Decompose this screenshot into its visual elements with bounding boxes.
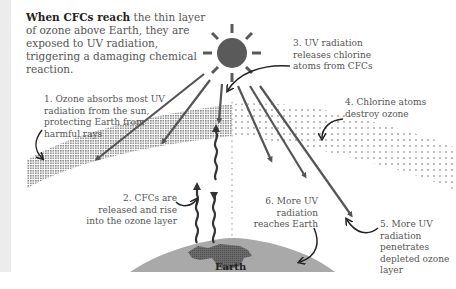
step-6-label: 6. More UV radiation reaches Earth <box>248 196 318 231</box>
step-5-label: 5. More UV radiation penetrates depleted… <box>380 219 450 277</box>
step-4-label: 4. Chlorine atoms destroy ozone <box>345 97 440 120</box>
earth-label: Earth <box>215 261 246 272</box>
step-3-label: 3. UV radiation releases chlorine atoms … <box>293 38 375 73</box>
callout-arrow-2 <box>176 200 196 206</box>
intro-text: When CFCs reach the thin layer of ozone … <box>26 11 206 76</box>
callout-arrow-5 <box>347 220 378 233</box>
cfc-wave-2 <box>213 195 215 243</box>
intro-bold: When CFCs reach <box>26 11 130 23</box>
sun-icon <box>203 24 261 82</box>
step-1-label: 1. Ozone absorbs most UV radiation from … <box>44 94 174 140</box>
step-2-label: 2. CFCs are released and rise into the o… <box>85 193 177 228</box>
cfc-wave-1 <box>196 186 198 243</box>
